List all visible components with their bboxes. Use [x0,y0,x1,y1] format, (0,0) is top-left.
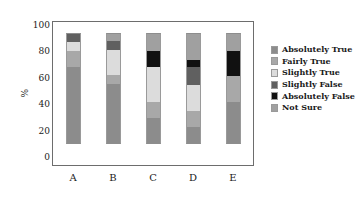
x-tick-label-e: E [221,173,245,183]
y-tick-label: 100 [24,21,50,30]
legend-label: Slightly True [282,68,340,77]
y-tick-label: 0 [24,153,50,162]
bar-d[interactable] [186,33,201,144]
x-tick-label-d: D [181,173,205,183]
legend-swatch-icon [271,69,278,77]
y-axis-tick-labels: 020406080100 [24,25,50,157]
bar-segment[interactable] [106,41,121,50]
bar-segment[interactable] [66,67,81,144]
bar-c[interactable] [146,33,161,144]
bar-segment[interactable] [106,84,121,144]
plot-frame: ABCDE [52,21,254,166]
legend-item[interactable]: Fairly True [271,56,359,68]
legend-label: Slightly False [282,80,343,89]
bar-segment[interactable] [226,51,241,77]
x-tick-label-b: B [101,173,125,183]
legend-swatch-icon [271,57,278,65]
bar-e[interactable] [226,33,241,144]
bar-segment[interactable] [66,42,81,51]
bar-segment[interactable] [226,102,241,144]
legend-item[interactable]: Absolutely True [271,44,359,56]
bar-segment[interactable] [186,85,201,111]
bar-segment[interactable] [186,60,201,68]
bar-segment[interactable] [226,33,241,51]
bar-segment[interactable] [186,127,201,144]
legend-item[interactable]: Slightly False [271,79,359,91]
bar-segment[interactable] [186,111,201,128]
bar-segment[interactable] [146,118,161,144]
legend-item[interactable]: Absolutely False [271,90,359,102]
bar-a[interactable] [66,33,81,144]
bar-segment[interactable] [146,67,161,101]
bar-segment[interactable] [186,67,201,85]
x-tick-label-c: C [141,173,165,183]
bar-segment[interactable] [146,51,161,68]
chart-figure: % 020406080100 ABCDE Absolutely TrueFair… [0,0,361,199]
bar-segment[interactable] [146,102,161,119]
y-tick-label: 60 [24,73,50,82]
bar-segment[interactable] [106,50,121,76]
legend-swatch-icon [271,81,278,89]
bar-segment[interactable] [186,33,201,60]
legend-label: Absolutely False [282,92,355,101]
bar-segment[interactable] [66,34,81,42]
bar-segment[interactable] [106,33,121,41]
y-tick-label: 80 [24,47,50,56]
legend-item[interactable]: Not Sure [271,102,359,114]
y-tick-label: 20 [24,126,50,135]
bar-segment[interactable] [106,75,121,84]
legend-label: Fairly True [282,57,331,66]
bar-b[interactable] [106,33,121,144]
bar-segment[interactable] [66,33,81,34]
bar-segment[interactable] [226,76,241,102]
legend-swatch-icon [271,92,278,100]
chart-legend: Absolutely TrueFairly TrueSlightly TrueS… [271,44,359,114]
y-tick-label: 40 [24,100,50,109]
legend-label: Absolutely True [282,45,352,54]
legend-label: Not Sure [282,103,322,112]
bar-segment[interactable] [146,33,161,51]
x-tick-label-a: A [61,173,85,183]
bar-segment[interactable] [66,51,81,68]
legend-item[interactable]: Slightly True [271,67,359,79]
legend-swatch-icon [271,104,278,112]
plot-area: ABCDE [53,22,253,165]
legend-swatch-icon [271,46,278,54]
